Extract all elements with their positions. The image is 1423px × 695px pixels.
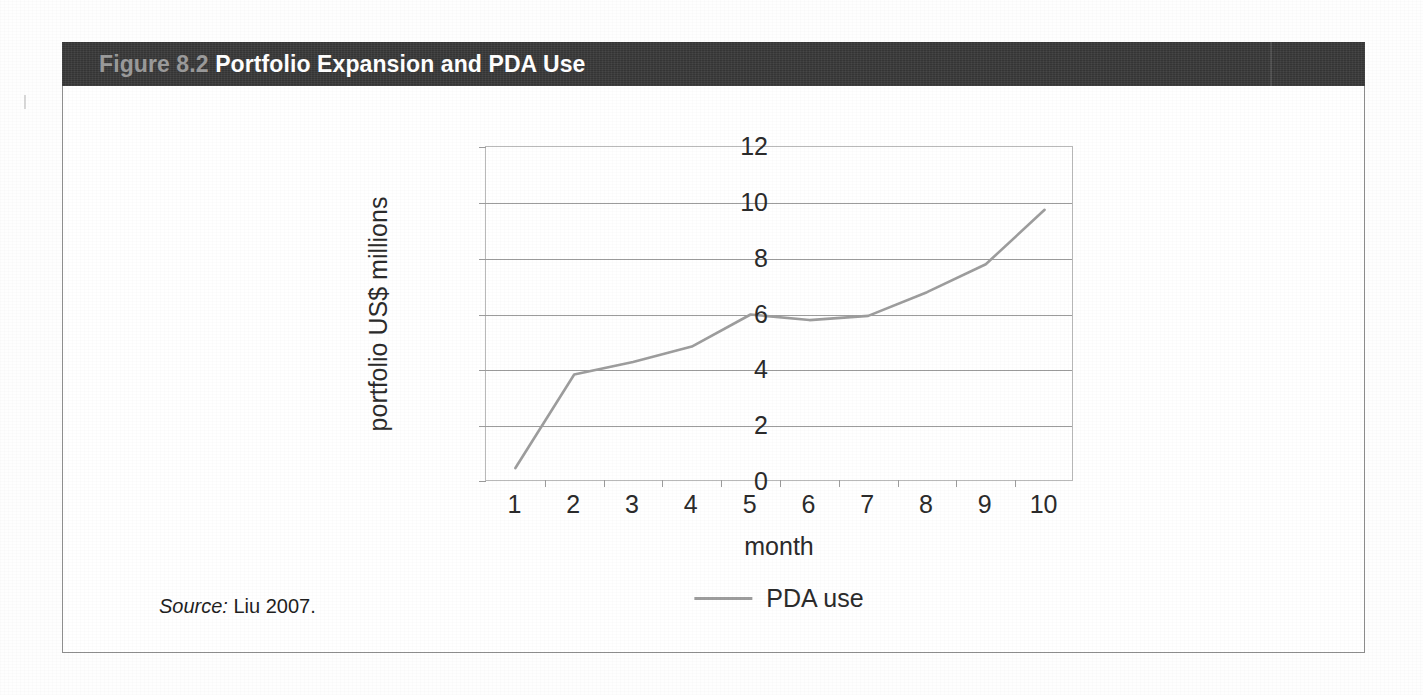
x-axis-tick-label: 4 <box>684 490 698 519</box>
source-label: Source: <box>159 595 228 617</box>
x-axis-tick-label: 9 <box>978 490 992 519</box>
y-axis-tick <box>479 147 486 148</box>
y-axis-tick-label: 4 <box>754 355 768 384</box>
y-axis-tick <box>479 203 486 204</box>
series-path <box>515 210 1044 468</box>
y-axis-tick-label: 6 <box>754 299 768 328</box>
figure-title: Portfolio Expansion and PDA Use <box>215 51 585 77</box>
y-axis-tick-label: 8 <box>754 243 768 272</box>
scan-seam-artifact <box>1270 42 1272 86</box>
x-axis-title: month <box>744 532 813 561</box>
y-axis-tick-label: 2 <box>754 411 768 440</box>
y-axis-tick <box>479 259 486 260</box>
figure-caption: Figure 8.2 Portfolio Expansion and PDA U… <box>62 51 585 78</box>
y-axis-tick <box>479 481 486 482</box>
series-line-pda-use <box>486 147 1074 482</box>
source-note: Source: Liu 2007. <box>159 595 316 618</box>
figure-header-bar: Figure 8.2 Portfolio Expansion and PDA U… <box>62 42 1365 86</box>
figure-box: portfolio US$ millions 121086420 1234567… <box>62 42 1365 653</box>
chart-legend: PDA use <box>694 584 863 613</box>
x-axis-tick-label: 6 <box>801 490 815 519</box>
y-axis-tick <box>479 315 486 316</box>
x-axis-tick-label: 7 <box>860 490 874 519</box>
y-axis-tick-label: 10 <box>740 187 768 216</box>
legend-label-pda-use: PDA use <box>766 584 863 613</box>
plot-area <box>485 146 1073 481</box>
chart-canvas: portfolio US$ millions 121086420 1234567… <box>63 86 1366 653</box>
y-axis-title: portfolio US$ millions <box>364 197 393 432</box>
y-axis-tick <box>479 370 486 371</box>
scan-speck-artifact <box>24 95 26 109</box>
legend-line-swatch <box>694 597 752 600</box>
y-axis-tick-label: 12 <box>740 132 768 161</box>
x-axis-tick-label: 8 <box>919 490 933 519</box>
x-axis-tick-label: 5 <box>743 490 757 519</box>
figure-number: Figure 8.2 <box>99 51 209 77</box>
source-value: Liu 2007. <box>234 595 316 617</box>
x-axis-tick-label: 2 <box>566 490 580 519</box>
x-axis-tick-label: 3 <box>625 490 639 519</box>
y-axis-tick <box>479 426 486 427</box>
x-axis-tick-label: 10 <box>1030 490 1058 519</box>
x-axis-tick-label: 1 <box>507 490 521 519</box>
